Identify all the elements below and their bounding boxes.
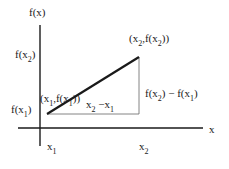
y-tick-fx1: f(x1) [11, 103, 32, 119]
y-axis-label: f(x) [29, 6, 46, 19]
x-axis-label: x [209, 123, 215, 135]
y-tick-fx2: f(x2) [15, 48, 36, 64]
x-tick-x1: x1 [47, 140, 57, 156]
rise-label: f(x2) − f(x1) [145, 87, 198, 103]
x-tick-x2: x2 [139, 140, 149, 156]
diagram-canvas: f(x) x f(x2) f(x1) x1 x2 (x1,f(x1)) (x2,… [0, 0, 229, 169]
slope-diagram: f(x) x f(x2) f(x1) x1 x2 (x1,f(x1)) (x2,… [0, 0, 229, 169]
run-label: x2 −x1 [86, 98, 114, 114]
point-2-label: (x2,f(x2)) [129, 32, 169, 48]
